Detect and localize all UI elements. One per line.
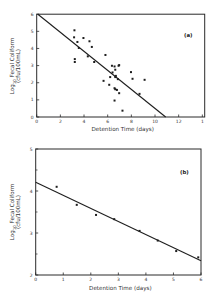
data-point [144, 79, 146, 81]
y-tick-label: 5 [31, 29, 34, 34]
data-point [132, 78, 134, 80]
fitted-line [36, 182, 201, 261]
y-tick-label: 0 [31, 115, 34, 120]
data-point [121, 110, 123, 112]
y-label-log: Log [9, 84, 16, 94]
y-tick-label: 4 [30, 189, 33, 194]
data-point [93, 61, 95, 63]
x-axis-label: Detention Time (days) [89, 285, 151, 292]
x-axis-label: Detention Time (days) [91, 126, 153, 133]
x-tick-label: 0 [34, 277, 37, 282]
x-tick-label: 1 [62, 277, 65, 282]
data-point [114, 87, 116, 89]
y-tick-label: 3 [31, 63, 34, 68]
x-tick-label: 0 [35, 119, 38, 124]
y-tick-label: 4 [31, 46, 34, 51]
data-point [114, 69, 116, 71]
data-point [76, 204, 78, 206]
y-axis-label-units: (cfu/100mL) [15, 195, 21, 229]
data-point [114, 100, 116, 102]
plot-frame [37, 14, 205, 117]
data-point [130, 71, 132, 73]
x-tick-label: 1 [201, 119, 204, 124]
chart-panel-b: 01234562345(b)Detention Time (days)Log10… [9, 147, 203, 292]
x-tick-label: 2 [59, 119, 62, 124]
data-point [175, 250, 177, 252]
y-tick-label: 2 [31, 80, 34, 85]
data-point [74, 61, 76, 63]
data-point [95, 214, 97, 216]
x-tick-label: 4 [83, 119, 86, 124]
x-tick-label: 8 [130, 119, 133, 124]
fitted-line [38, 14, 166, 117]
x-tick-label: 6 [200, 277, 203, 282]
chart-panel-a: 02468101210123456(a)Detention Time (days… [9, 12, 205, 133]
data-point [111, 65, 113, 67]
figure: 02468101210123456(a)Detention Time (days… [0, 0, 214, 307]
panel-label: (b) [180, 169, 189, 175]
data-point [76, 41, 78, 43]
y-tick-label: 1 [31, 97, 34, 102]
x-tick-label: 12 [176, 119, 182, 124]
data-point [56, 186, 58, 188]
data-point [197, 256, 199, 258]
data-point [139, 93, 141, 95]
data-point [91, 46, 93, 48]
data-point [116, 89, 118, 91]
data-point [87, 55, 89, 57]
x-tick-label: 6 [106, 119, 109, 124]
data-point [118, 92, 120, 94]
y-tick-label: 5 [30, 147, 33, 152]
plot-frame [36, 149, 201, 275]
x-tick-label: 10 [152, 119, 158, 124]
y-label-log: Log [9, 230, 16, 240]
data-point [73, 29, 75, 31]
data-point [118, 64, 120, 66]
x-tick-label: 3 [117, 277, 120, 282]
data-point [74, 58, 76, 60]
data-point [82, 37, 84, 39]
panel-label: (a) [184, 32, 193, 38]
x-tick-label: 5 [172, 277, 175, 282]
x-tick-label: 2 [89, 277, 92, 282]
data-point [114, 65, 116, 67]
x-tick-label: 4 [144, 277, 147, 282]
data-point [73, 36, 75, 38]
y-tick-label: 2 [30, 273, 33, 278]
data-point [109, 76, 111, 78]
data-point [108, 84, 110, 86]
data-point [103, 80, 105, 82]
y-tick-label: 6 [31, 12, 34, 17]
data-point [104, 54, 106, 56]
y-axis-label-units: (cfu/100mL) [15, 49, 21, 83]
y-tick-label: 3 [30, 231, 33, 236]
data-point [88, 40, 90, 42]
